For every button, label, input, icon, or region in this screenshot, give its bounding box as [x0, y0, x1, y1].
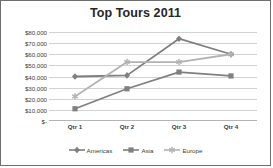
y-axis: $80,000$70,000$60,000$50,000$40,000$30,0… [1, 32, 47, 121]
data-point-square-marker [228, 73, 233, 78]
chart-title: Top Tours 2011 [1, 6, 270, 20]
y-axis-tick-label: $60,000 [3, 51, 47, 58]
x-axis-tick-label: Qtr 1 [68, 123, 82, 130]
legend-square-icon [123, 146, 139, 154]
legend-label: Americas [87, 147, 113, 154]
legend-label: Europe [182, 147, 202, 154]
data-point-square-marker [176, 69, 181, 74]
legend-item-asia[interactable]: Asia [123, 146, 153, 154]
legend-diamond-icon [69, 146, 85, 154]
data-point-square-marker [124, 86, 129, 91]
series-line [75, 72, 231, 109]
y-axis-tick-label: $30,000 [3, 84, 47, 91]
chart-container: Top Tours 2011 $80,000$70,000$60,000$50,… [0, 0, 271, 166]
y-axis-tick-label: $- [3, 118, 47, 125]
y-axis-tick-label: $80,000 [3, 29, 47, 36]
x-axis-tick-label: Qtr 4 [224, 123, 238, 130]
x-axis: Qtr 1Qtr 2Qtr 3Qtr 4 [49, 123, 257, 135]
x-axis-tick-label: Qtr 3 [172, 123, 186, 130]
data-point-diamond-marker [74, 147, 80, 154]
data-point-diamond-marker [72, 73, 78, 80]
legend-label: Asia [141, 147, 153, 154]
x-axis-tick-label: Qtr 2 [120, 123, 134, 130]
plot-area [49, 32, 257, 121]
y-axis-tick-label: $50,000 [3, 62, 47, 69]
data-point-square-marker [129, 147, 134, 152]
series-layer [49, 32, 257, 121]
chart-legend: AmericasAsiaEurope [1, 146, 270, 154]
legend-item-americas[interactable]: Americas [69, 146, 113, 154]
legend-item-europe[interactable]: Europe [164, 146, 202, 154]
y-axis-tick-label: $40,000 [3, 73, 47, 80]
legend-star-icon [164, 146, 180, 154]
y-axis-tick-label: $20,000 [3, 95, 47, 102]
y-axis-tick-label: $70,000 [3, 40, 47, 47]
data-point-square-marker [72, 106, 77, 111]
y-axis-tick-label: $10,000 [3, 106, 47, 113]
